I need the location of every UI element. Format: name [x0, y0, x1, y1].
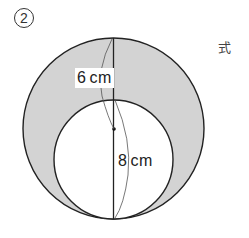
- dimension-value: 6: [77, 69, 86, 86]
- dimension-label-6cm: 6cm: [75, 68, 114, 88]
- circle-diagram: [0, 0, 249, 238]
- dimension-unit: cm: [130, 152, 152, 169]
- dimension-value: 8: [118, 152, 127, 169]
- dimension-unit: cm: [89, 69, 111, 86]
- dimension-label-8cm: 8cm: [116, 151, 155, 171]
